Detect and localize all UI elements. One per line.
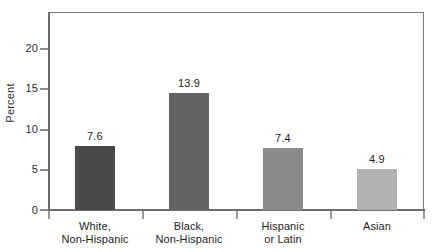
x-axis-label-line: Non-Hispanic — [142, 233, 236, 246]
bars-layer — [48, 12, 424, 210]
x-axis-label-asian: Asian — [330, 220, 424, 233]
bar-hispanic-or-latin — [263, 148, 303, 210]
bar-value-label: 7.6 — [65, 131, 125, 142]
x-axis-separator — [48, 211, 50, 219]
bar-value-label: 7.4 — [253, 133, 313, 144]
bar-value-label: 4.9 — [347, 154, 407, 165]
y-tick-label: 0 — [4, 205, 38, 216]
x-axis-label-line: or Latin — [236, 233, 330, 246]
y-tick-label: 15 — [4, 83, 38, 94]
x-axis-label-line: White, — [48, 220, 142, 233]
x-axis-separator — [423, 211, 425, 219]
x-axis-label-line: Asian — [330, 220, 424, 233]
y-tick-label: 20 — [4, 43, 38, 54]
bar-asian — [357, 169, 397, 210]
bar-black-non-hispanic — [169, 93, 209, 210]
x-axis-separator — [142, 211, 144, 219]
y-tick-label: 5 — [4, 164, 38, 175]
y-tick-label: 10 — [4, 124, 38, 135]
x-axis-label-hispanic-or-latin: Hispanic or Latin — [236, 220, 330, 246]
bar-white-non-hispanic — [75, 146, 115, 210]
bar-value-label: 13.9 — [159, 78, 219, 89]
x-axis-label-black-non-hispanic: Black, Non-Hispanic — [142, 220, 236, 246]
bar-chart: Percent 20 15 10 5 0 7.6 13.9 — [0, 0, 442, 252]
x-axis-label-line: Black, — [142, 220, 236, 233]
x-axis-label-line: Non-Hispanic — [48, 233, 142, 246]
x-axis-label-white-non-hispanic: White, Non-Hispanic — [48, 220, 142, 246]
x-axis-label-line: Hispanic — [236, 220, 330, 233]
x-axis-separator — [330, 211, 332, 219]
x-axis-separator — [236, 211, 238, 219]
